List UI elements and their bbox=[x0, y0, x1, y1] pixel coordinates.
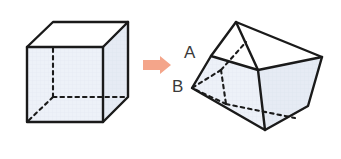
vertex-label-b: B bbox=[172, 78, 183, 95]
figure-canvas: A B bbox=[0, 0, 341, 159]
tilted-cube bbox=[192, 22, 322, 130]
transform-arrow bbox=[143, 56, 171, 74]
geometry-diagram bbox=[0, 0, 341, 159]
upright-cube bbox=[27, 22, 128, 122]
vertex-label-a: A bbox=[184, 44, 195, 61]
arrow-right-icon bbox=[143, 56, 171, 74]
upright-cube-front-face bbox=[27, 47, 103, 122]
